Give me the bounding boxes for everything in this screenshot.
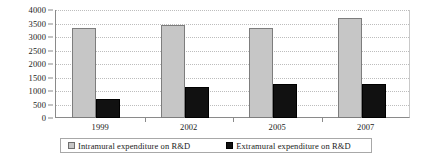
y-tick-label: 2000 (29, 59, 46, 69)
y-tick-mark (48, 37, 53, 38)
x-tick-mark (145, 118, 146, 122)
y-tick-mark (48, 23, 53, 24)
y-tick-mark (48, 118, 53, 119)
bar-intramural-2002 (161, 25, 185, 118)
y-tick-label: 3000 (29, 32, 46, 42)
bar-extramural-2002 (185, 87, 209, 118)
bar-intramural-2005 (249, 28, 273, 118)
legend-label: Intramural expenditure on R&D (78, 141, 190, 151)
y-tick-mark (48, 10, 53, 11)
y-tick-mark (48, 77, 53, 78)
x-tick-label: 2005 (269, 122, 286, 132)
y-tick-label: 2500 (29, 46, 46, 56)
y-tick-mark (48, 104, 53, 105)
y-tick-mark (48, 64, 53, 65)
y-axis: 05001000150020002500300035004000 (0, 0, 55, 128)
x-tick-mark (322, 118, 323, 122)
legend-label: Extramural expenditure on R&D (236, 141, 351, 151)
y-tick-label: 0 (42, 113, 46, 123)
y-tick-label: 1500 (29, 73, 46, 83)
legend-entry-intramural: Intramural expenditure on R&D (68, 141, 190, 151)
bar-intramural-1999 (72, 28, 96, 118)
y-tick-label: 1000 (29, 86, 46, 96)
y-tick-mark (48, 50, 53, 51)
bar-extramural-2005 (273, 84, 297, 118)
x-tick-label: 1999 (92, 122, 109, 132)
bar-extramural-1999 (96, 99, 120, 118)
bar-extramural-2007 (362, 84, 386, 118)
x-tick-label: 2002 (180, 122, 197, 132)
bar-chart: 05001000150020002500300035004000 1999200… (0, 0, 432, 162)
y-tick-mark (48, 91, 53, 92)
legend-swatch-extramural-icon (226, 142, 233, 149)
y-tick-label: 500 (33, 100, 46, 110)
legend-entry-extramural: Extramural expenditure on R&D (226, 141, 351, 151)
y-tick-label: 4000 (29, 5, 46, 15)
y-tick-label: 3500 (29, 19, 46, 29)
bar-intramural-2007 (338, 18, 362, 118)
x-tick-mark (233, 118, 234, 122)
legend-swatch-intramural-icon (68, 142, 75, 149)
x-tick-label: 2007 (357, 122, 374, 132)
x-axis: 1999200220052007 (56, 118, 410, 134)
bars-layer (56, 10, 410, 118)
chart-legend: Intramural expenditure on R&DExtramural … (60, 138, 372, 153)
